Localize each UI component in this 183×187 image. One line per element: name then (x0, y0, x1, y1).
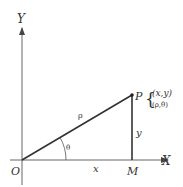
polar-coordinate-diagram: Y X O M x y ρ θ P { (x,y) (ρ,θ) (0, 0, 183, 187)
angle-label: θ (66, 144, 70, 152)
polar-coords: (ρ,θ) (152, 101, 168, 109)
segment-op-label: ρ (78, 111, 83, 120)
y-axis-label: Y (17, 12, 26, 26)
segment-op (22, 95, 132, 160)
x-axis-label: X (161, 154, 171, 168)
segment-om-label: x (93, 163, 99, 174)
segment-pm-label: y (135, 127, 142, 138)
cartesian-coords: (x,y) (152, 88, 173, 98)
point-p (130, 93, 134, 97)
origin-label: O (11, 165, 20, 178)
point-p-label: P (134, 90, 143, 103)
point-m-label: M (126, 165, 139, 178)
